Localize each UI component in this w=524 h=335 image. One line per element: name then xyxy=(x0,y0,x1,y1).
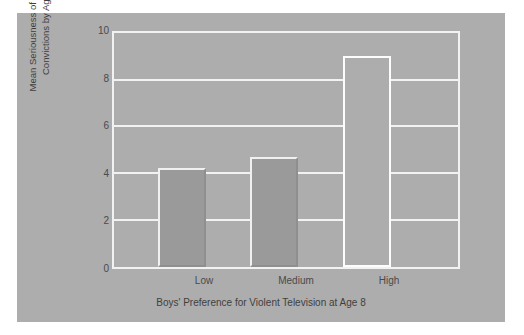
y-tick-label: 10 xyxy=(98,26,109,36)
bar-medium xyxy=(250,157,298,267)
bar-low xyxy=(158,168,206,267)
x-tick-label-high: High xyxy=(379,275,400,286)
y-tick-label: 6 xyxy=(103,121,109,131)
plot-area xyxy=(112,31,460,269)
x-axis-title: Boys' Preference for Violent Television … xyxy=(17,297,505,308)
bar-body xyxy=(343,56,391,267)
chart-panel: Mean Seriousness of Criminal Convictions… xyxy=(17,13,505,322)
gridline-8 xyxy=(114,79,458,81)
bar-body xyxy=(250,157,298,267)
x-tick-label-low: Low xyxy=(195,275,213,286)
chart-figure: Mean Seriousness of Criminal Convictions… xyxy=(0,0,524,335)
y-axis-title-text: Mean Seriousness of Criminal Convictions… xyxy=(27,0,53,91)
x-tick-label-medium: Medium xyxy=(278,275,314,286)
bar-body xyxy=(158,168,206,267)
y-tick-label: 8 xyxy=(103,74,109,84)
bar-high xyxy=(343,56,391,267)
y-tick-label: 0 xyxy=(103,264,109,274)
y-axis-title: Mean Seriousness of Criminal Convictions… xyxy=(11,0,69,147)
y-tick-label: 2 xyxy=(103,216,109,226)
y-tick-label: 4 xyxy=(103,169,109,179)
gridline-6 xyxy=(114,125,458,127)
y-axis-ticks: 0 2 4 6 8 10 xyxy=(77,31,109,269)
